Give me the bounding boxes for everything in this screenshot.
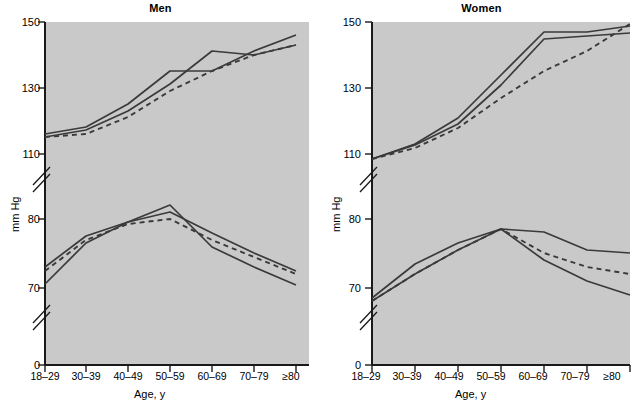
plot-background-women <box>372 22 630 365</box>
panel-women: Women 150 130 110 80 70 0 mm Hg 18–29 30… <box>321 0 642 405</box>
plot-background <box>45 22 309 365</box>
panel-men: Men 150 130 110 80 70 0 mm Hg 18–29 30–3… <box>0 0 321 405</box>
plot-area-women <box>321 0 642 405</box>
plot-area-men <box>0 0 321 405</box>
x-tick-marks-women <box>372 365 630 372</box>
x-tick-marks <box>45 365 296 372</box>
